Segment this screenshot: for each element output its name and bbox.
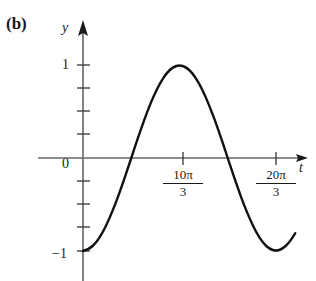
plot-svg	[0, 0, 316, 281]
axes-group	[38, 20, 308, 281]
